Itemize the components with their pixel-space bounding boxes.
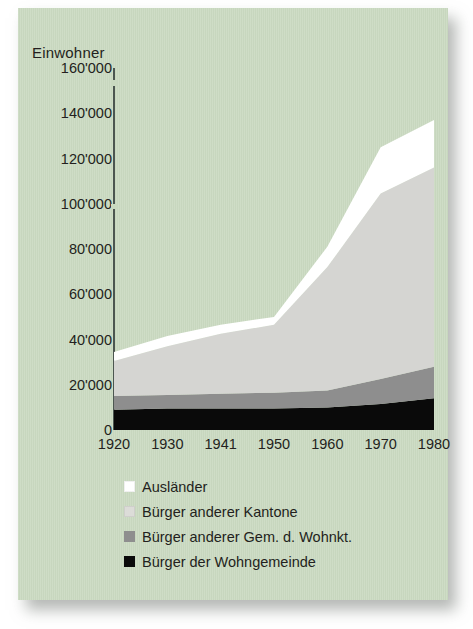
area-series (114, 168, 434, 397)
x-tick-label: 1950 (258, 436, 290, 452)
y-tick-label: 160'000 (20, 60, 112, 76)
y-tick-label: 100'000 (20, 196, 112, 212)
stacked-area-chart (110, 30, 440, 442)
y-tick-label: 80'000 (20, 241, 112, 257)
legend-label: Bürger anderer Gem. d. Wohnkt. (142, 529, 352, 545)
legend-item[interactable]: Bürger anderer Gem. d. Wohnkt. (124, 524, 434, 549)
legend-item[interactable]: Ausländer (124, 474, 434, 499)
x-tick-label: 1920 (98, 436, 130, 452)
legend-label: Ausländer (142, 479, 207, 495)
legend-swatch-icon (124, 531, 135, 542)
y-axis-tick-labels: 020'00040'00060'00080'000100'000120'0001… (18, 8, 112, 600)
legend-swatch-icon (124, 481, 135, 492)
x-tick-label: 1930 (151, 436, 183, 452)
chart-legend: AusländerBürger anderer KantoneBürger an… (124, 474, 434, 574)
x-tick-label: 1941 (205, 436, 237, 452)
legend-label: Bürger der Wohngemeinde (142, 554, 316, 570)
x-tick-label: 1970 (365, 436, 397, 452)
legend-swatch-icon (124, 556, 135, 567)
legend-item[interactable]: Bürger der Wohngemeinde (124, 549, 434, 574)
x-tick-label: 1960 (311, 436, 343, 452)
y-tick-label: 120'000 (20, 151, 112, 167)
y-tick-label: 140'000 (20, 105, 112, 121)
y-tick-label: 60'000 (20, 286, 112, 302)
chart-card: Einwohner 020'00040'00060'00080'000100'0… (18, 8, 448, 600)
legend-item[interactable]: Bürger anderer Kantone (124, 499, 434, 524)
y-tick-label: 20'000 (20, 377, 112, 393)
y-tick-label: 40'000 (20, 332, 112, 348)
legend-label: Bürger anderer Kantone (142, 504, 298, 520)
x-tick-label: 1980 (418, 436, 450, 452)
legend-swatch-icon (124, 506, 135, 517)
